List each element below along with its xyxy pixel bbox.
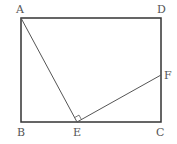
label-a: A (15, 3, 25, 16)
label-c: C (156, 126, 164, 139)
rectangle-abcd (21, 18, 161, 122)
segment-ef (77, 75, 161, 122)
geometry-diagram: A D B E C F (0, 0, 177, 144)
label-e: E (73, 126, 81, 139)
label-d: D (157, 3, 166, 16)
segment-ae (21, 18, 77, 122)
label-b: B (17, 126, 25, 139)
label-f: F (164, 69, 172, 82)
